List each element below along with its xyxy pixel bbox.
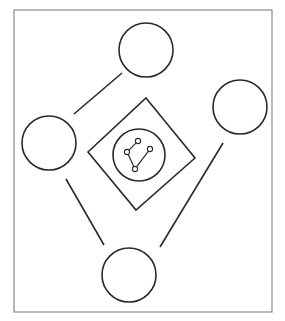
small-node-n2 — [135, 138, 140, 143]
small-node-n3 — [147, 146, 152, 151]
inner-circle — [113, 129, 165, 181]
diagram-frame — [14, 10, 272, 312]
small-edge-n4-n3 — [137, 151, 149, 167]
center-diamond — [88, 98, 195, 210]
small-node-n1 — [124, 149, 129, 154]
outer-circle-right — [213, 80, 267, 134]
connector-line-top-left — [74, 73, 122, 114]
connector-line-right-bottom — [160, 143, 223, 247]
connector-line-left-bottom — [66, 179, 104, 245]
diagram-canvas — [0, 0, 285, 321]
small-graph-edges — [128, 143, 148, 167]
outer-circle-left — [22, 116, 76, 170]
small-edge-n1-n4 — [128, 154, 134, 166]
outer-circle-top — [119, 23, 173, 77]
small-edge-n1-n2 — [129, 143, 136, 150]
small-node-n4 — [132, 166, 137, 171]
outer-circles — [22, 23, 267, 302]
outer-circle-bottom — [102, 248, 156, 302]
